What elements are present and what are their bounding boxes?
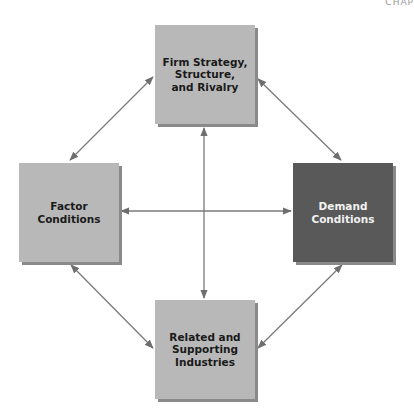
- node-factor-conditions: Factor Conditions: [19, 163, 119, 262]
- node-related-supporting: Related and Supporting Industries: [155, 300, 255, 399]
- node-label: Firm Strategy, Structure, and Rivalry: [156, 56, 253, 94]
- node-label: Demand Conditions: [305, 200, 380, 225]
- node-label: Factor Conditions: [31, 200, 106, 225]
- node-demand-conditions: Demand Conditions: [293, 163, 393, 262]
- node-label: Related and Supporting Industries: [163, 331, 246, 369]
- arrow-factor-related: [71, 265, 153, 348]
- arrow-firm-factor: [70, 77, 153, 160]
- arrow-demand-related: [258, 265, 342, 348]
- node-firm-strategy: Firm Strategy, Structure, and Rivalry: [155, 25, 255, 124]
- arrow-firm-demand: [258, 79, 341, 160]
